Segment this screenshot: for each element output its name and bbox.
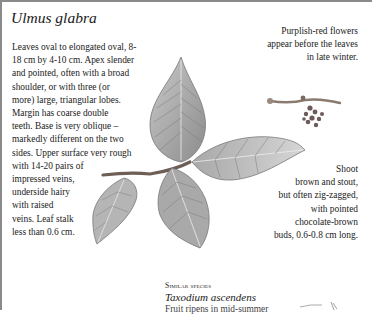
similar-species-text: Fruit ripens in mid-summer (165, 304, 268, 314)
similar-species-name: Taxodium ascendens (165, 291, 268, 303)
similar-species-section: Similar species Taxodium ascendens Fruit… (165, 281, 268, 314)
similar-species-label: Similar species (165, 281, 268, 290)
